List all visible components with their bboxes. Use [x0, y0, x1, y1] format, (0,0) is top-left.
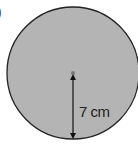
- center-point: [71, 71, 75, 75]
- radius-label: 7 cm: [79, 103, 110, 120]
- circle-diagram: [0, 0, 138, 145]
